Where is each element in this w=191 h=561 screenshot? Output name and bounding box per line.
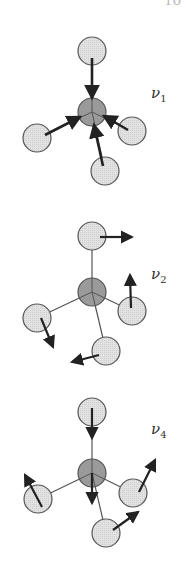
mode-label-nu2: ν2 [151, 265, 167, 285]
displacement-arrow-icon [139, 460, 155, 492]
mode-index: 2 [160, 274, 166, 285]
ligand-atom [118, 297, 146, 325]
ligand-atom [23, 124, 51, 152]
nu-symbol: ν [151, 265, 160, 283]
panel-mode-2 [23, 222, 146, 365]
mode-label-nu1: ν1 [151, 84, 167, 104]
ligand-atom [23, 304, 51, 332]
displacement-arrow-icon [113, 512, 138, 530]
nu-symbol: ν [151, 84, 160, 102]
mode-index: 4 [160, 429, 166, 440]
panel-mode-1 [23, 37, 146, 185]
mode-index: 1 [160, 93, 166, 104]
ligand-atom [118, 117, 146, 145]
nu-symbol: ν [151, 420, 160, 438]
displacement-arrow-icon [130, 275, 131, 308]
displacement-arrow-icon [45, 117, 80, 135]
ligand-atom [91, 157, 119, 185]
ligand-atom [92, 337, 120, 365]
panel-mode-4 [24, 398, 155, 547]
ligand-atom [92, 519, 120, 547]
mode-label-nu4: ν4 [151, 420, 167, 440]
